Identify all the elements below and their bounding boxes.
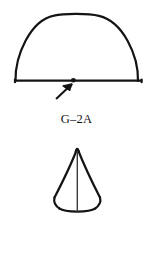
figure-caption-g-2a: G–2A xyxy=(0,113,153,126)
center-point-dot xyxy=(71,78,76,83)
cone-base-left-wing xyxy=(54,197,59,208)
cone-right-slant xyxy=(78,149,100,198)
dome-arc-path xyxy=(15,14,138,81)
figure-g-2b: G–2B xyxy=(0,131,153,261)
figure-g-2a: G–2A xyxy=(0,0,153,131)
cone-left-slant xyxy=(55,149,78,198)
figure-sheet: G–2A G–2B xyxy=(0,0,153,261)
cone-drawing xyxy=(0,131,153,234)
dome-drawing xyxy=(0,0,153,113)
cone-base-right-wing xyxy=(95,197,100,208)
